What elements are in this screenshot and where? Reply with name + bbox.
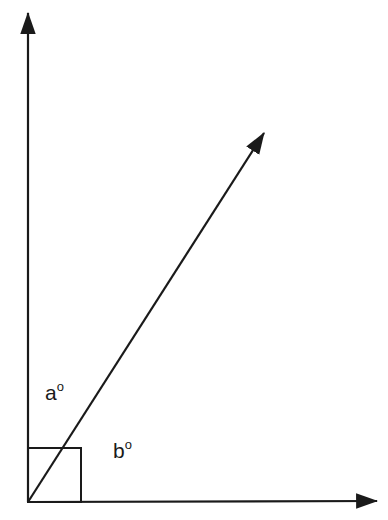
angle-b-degree: o [125, 437, 132, 452]
angle-a-letter: a [45, 381, 57, 404]
right-angle-marker [28, 448, 81, 502]
angle-b-letter: b [113, 439, 125, 462]
angle-label-b: bo [113, 440, 132, 461]
angle-label-a: ao [45, 382, 64, 403]
angle-ray [28, 133, 264, 502]
angle-a-degree: o [57, 379, 64, 394]
angle-diagram [0, 0, 388, 520]
